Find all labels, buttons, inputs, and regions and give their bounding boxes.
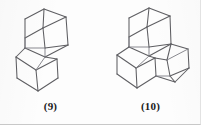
bond	[136, 68, 137, 88]
bond	[25, 9, 44, 19]
lower-cage-9	[16, 48, 58, 91]
bond	[43, 9, 44, 28]
bond	[117, 55, 136, 68]
structure-9-drawing	[0, 4, 101, 99]
bond	[25, 28, 43, 38]
bond	[167, 60, 170, 76]
bond	[117, 74, 137, 88]
bond	[44, 9, 66, 17]
figure-page: (9)	[0, 0, 201, 125]
bond	[25, 48, 45, 57]
bond	[36, 70, 38, 91]
bond	[147, 16, 170, 27]
structure-10-label: (10)	[100, 99, 201, 113]
bond	[147, 27, 149, 47]
bond	[149, 8, 170, 16]
bond	[171, 44, 188, 49]
bond	[16, 57, 17, 78]
bond	[167, 49, 188, 60]
bond	[129, 8, 149, 18]
bond	[188, 49, 189, 68]
bond	[147, 8, 149, 27]
structure-9-slot: (9)	[0, 0, 101, 125]
bond	[170, 68, 189, 76]
bond	[149, 56, 155, 58]
bond	[66, 17, 68, 45]
left-cage-10	[117, 47, 156, 88]
bond	[16, 48, 25, 57]
bond	[17, 78, 38, 91]
bond	[155, 58, 167, 60]
bond	[38, 78, 58, 91]
bond	[43, 28, 45, 48]
bond	[129, 27, 147, 37]
bond	[43, 17, 66, 28]
structure-9-label: (9)	[0, 99, 101, 113]
bond	[155, 58, 156, 76]
bond	[175, 68, 189, 82]
upper-cage-9	[25, 9, 68, 57]
bond	[57, 59, 58, 78]
bond	[36, 59, 57, 70]
bond	[16, 57, 36, 70]
bond	[117, 47, 129, 55]
structure-10-slot: (10)	[100, 0, 201, 125]
bond	[137, 76, 156, 88]
bond	[170, 16, 171, 44]
structure-10-drawing	[100, 4, 201, 99]
top-cage-10	[129, 8, 171, 56]
bond	[45, 57, 57, 59]
bond	[129, 47, 149, 56]
